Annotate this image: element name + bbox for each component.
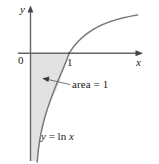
curve-equation-label: y = ln x [41, 131, 74, 142]
y-axis-arrowhead [28, 6, 34, 13]
x-intercept-marker [68, 52, 70, 54]
figure-container: y x 0 1 area = 1 y = ln x [0, 0, 159, 164]
curve-equation-ln: ln [58, 130, 67, 142]
x-tick-label-one: 1 [67, 57, 73, 68]
origin-label: 0 [18, 55, 24, 66]
y-axis-label: y [20, 4, 25, 15]
curve-equation-equals: = [46, 130, 58, 142]
curve-equation-x: x [69, 130, 74, 142]
x-axis-label: x [136, 57, 141, 68]
area-annotation-label: area = 1 [72, 79, 108, 90]
